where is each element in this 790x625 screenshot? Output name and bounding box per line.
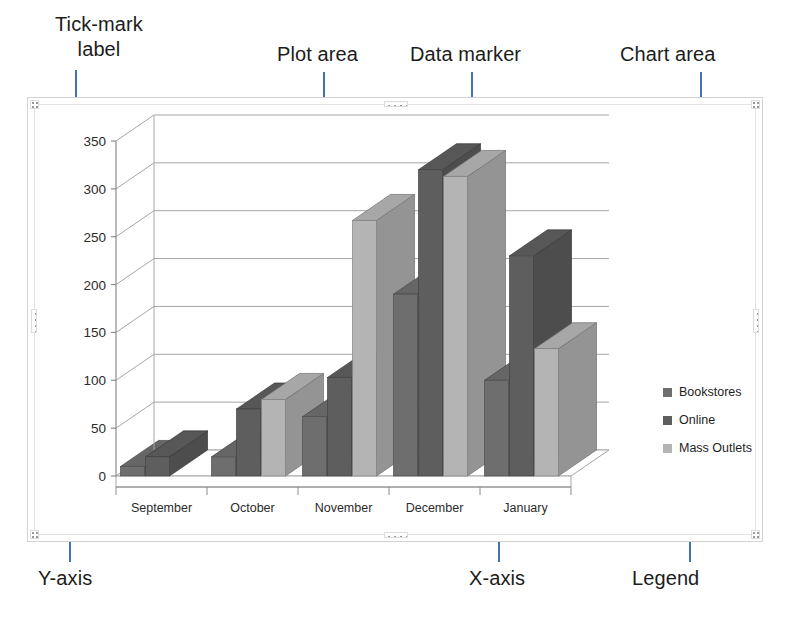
legend-swatch-online: [663, 416, 672, 425]
y-tick-label: 250: [83, 230, 106, 245]
data-marker[interactable]: [535, 323, 597, 476]
plot-area[interactable]: 050100150200250300350 SeptemberOctoberNo…: [28, 98, 764, 543]
data-markers-group: [121, 144, 597, 476]
annotation-label-y-axis: Y-axis: [38, 566, 92, 591]
y-tick-labels-group: 050100150200250300350: [83, 134, 106, 484]
y-tick-label: 350: [83, 134, 106, 149]
x-tick-label: September: [131, 501, 192, 515]
legend-swatch-bookstores: [663, 388, 672, 397]
x-tick-label: January: [503, 501, 548, 515]
legend-item-mass-outlets[interactable]: Mass Outlets: [663, 434, 783, 462]
annotation-label-tick-mark-label: Tick-mark label: [34, 12, 164, 62]
legend-item-online[interactable]: Online: [663, 406, 783, 434]
y-tick-label: 100: [83, 373, 106, 388]
x-tick-label: November: [315, 501, 373, 515]
legend-label-mass-outlets: Mass Outlets: [679, 441, 752, 455]
legend-label-bookstores: Bookstores: [679, 385, 742, 399]
chart-legend[interactable]: Bookstores Online Mass Outlets: [663, 378, 783, 462]
y-tick-label: 50: [91, 421, 106, 436]
legend-label-online: Online: [679, 413, 715, 427]
annotation-label-x-axis: X-axis: [469, 566, 525, 591]
annotation-label-legend: Legend: [632, 566, 699, 591]
y-tick-label: 200: [83, 278, 106, 293]
y-tick-label: 0: [98, 469, 106, 484]
x-tick-label: October: [230, 501, 274, 515]
y-tick-label: 300: [83, 182, 106, 197]
x-tick-label: December: [406, 501, 464, 515]
chart-area-frame[interactable]: 050100150200250300350 SeptemberOctoberNo…: [27, 97, 763, 542]
x-tick-labels-group: SeptemberOctoberNovemberDecemberJanuary: [131, 501, 549, 515]
annotation-label-data-marker: Data marker: [410, 42, 521, 67]
annotation-label-plot-area: Plot area: [277, 42, 358, 67]
legend-item-bookstores[interactable]: Bookstores: [663, 378, 783, 406]
annotation-label-chart-area: Chart area: [620, 42, 716, 67]
y-tick-label: 150: [83, 325, 106, 340]
legend-swatch-mass-outlets: [663, 444, 672, 453]
